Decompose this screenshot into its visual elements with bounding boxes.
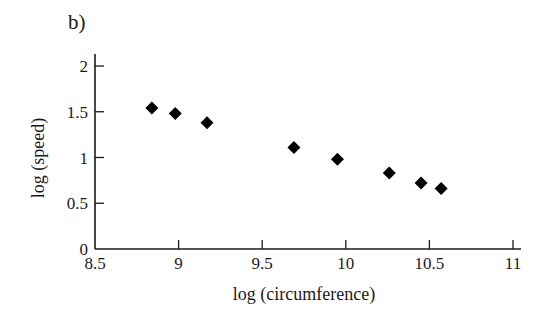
y-tick-label: 2 — [80, 57, 89, 76]
y-tick-label: 1.5 — [67, 103, 88, 122]
y-tick-label: 1 — [80, 149, 89, 168]
axes: 00.511.528.599.51010.511 — [67, 54, 521, 273]
data-point-diamond — [435, 182, 448, 195]
data-point-diamond — [287, 141, 300, 154]
data-point-diamond — [169, 107, 182, 120]
data-point-diamond — [415, 177, 428, 190]
x-tick-label: 10 — [337, 254, 354, 273]
x-tick-label: 9.5 — [252, 254, 273, 273]
data-point-diamond — [145, 102, 158, 115]
data-points — [145, 102, 447, 196]
data-point-diamond — [201, 116, 214, 129]
x-tick-label: 8.5 — [84, 254, 105, 273]
x-axis-label: log (circumference) — [233, 284, 375, 305]
y-tick-label: 0.5 — [67, 194, 88, 213]
y-axis-label: log (speed) — [28, 118, 49, 198]
data-point-diamond — [331, 153, 344, 166]
scatter-chart: 00.511.528.599.51010.511 log (circumfere… — [0, 0, 539, 317]
data-point-diamond — [383, 167, 396, 180]
x-tick-label: 10.5 — [415, 254, 445, 273]
x-tick-label: 11 — [505, 254, 521, 273]
x-tick-label: 9 — [174, 254, 183, 273]
